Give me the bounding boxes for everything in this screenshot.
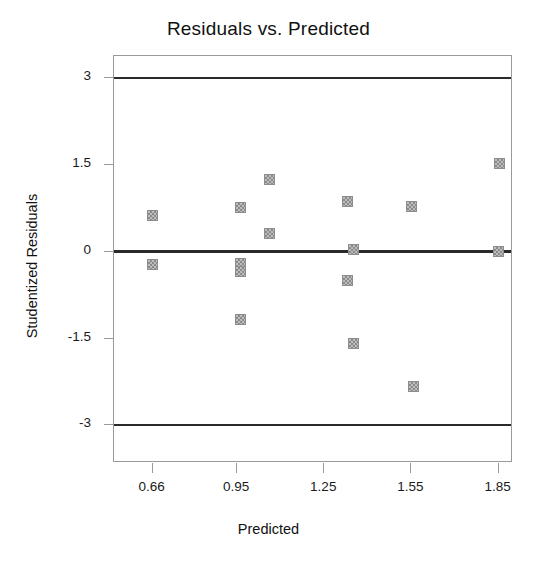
- y-axis-tick-label: -1.5: [51, 329, 91, 344]
- chart-figure: Residuals vs. Predicted Predicted Studen…: [0, 0, 537, 570]
- plot-area: [113, 55, 512, 462]
- data-point: [493, 246, 504, 257]
- data-point: [494, 158, 505, 169]
- data-point: [406, 201, 417, 212]
- y-axis-tick: [104, 77, 113, 78]
- data-point: [235, 266, 246, 277]
- y-axis-tick: [104, 164, 113, 165]
- x-axis-tick: [236, 463, 237, 473]
- x-axis-tick: [410, 463, 411, 473]
- x-axis-tick: [152, 463, 153, 473]
- x-axis-tick-label: 1.55: [380, 479, 440, 494]
- data-point: [348, 338, 359, 349]
- x-axis-tick: [498, 463, 499, 473]
- y-axis-tick: [104, 338, 113, 339]
- data-point: [235, 202, 246, 213]
- y-axis-title: Studentized Residuals: [24, 136, 40, 396]
- x-axis-tick-label: 1.25: [293, 479, 353, 494]
- lower-limit-line: [114, 424, 511, 426]
- x-axis-tick: [323, 463, 324, 473]
- data-point: [348, 244, 359, 255]
- y-axis-tick-label: 0: [51, 242, 91, 257]
- zero-line: [114, 250, 511, 253]
- y-axis-tick: [104, 424, 113, 425]
- y-axis-tick-label: 3: [51, 68, 91, 83]
- y-axis-tick-label: -3: [51, 415, 91, 430]
- data-point: [147, 210, 158, 221]
- x-axis-tick-label: 0.66: [122, 479, 182, 494]
- data-point: [147, 259, 158, 270]
- y-axis-tick-label: 1.5: [51, 155, 91, 170]
- data-point: [342, 196, 353, 207]
- upper-limit-line: [114, 77, 511, 79]
- data-point: [342, 275, 353, 286]
- data-point: [264, 228, 275, 239]
- x-axis-tick-label: 1.85: [468, 479, 528, 494]
- data-point: [264, 174, 275, 185]
- chart-title: Residuals vs. Predicted: [0, 18, 537, 40]
- y-axis-tick: [104, 251, 113, 252]
- data-point: [408, 381, 419, 392]
- x-axis-title: Predicted: [0, 521, 537, 537]
- x-axis-tick-label: 0.95: [206, 479, 266, 494]
- data-point: [235, 314, 246, 325]
